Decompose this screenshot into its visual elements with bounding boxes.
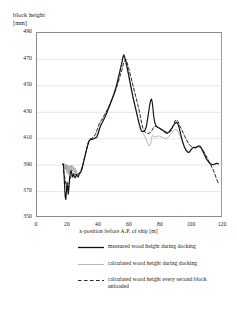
- y-tick-label: 490: [8, 28, 32, 34]
- x-tick-label: 60: [119, 221, 139, 227]
- series-measured-docking: [63, 55, 219, 200]
- legend-swatch-dashed-icon: [78, 276, 104, 284]
- legend-label-every-second-block: calculated wood height every second bloc…: [108, 276, 207, 291]
- y-axis-title: block height [mm]: [13, 11, 45, 26]
- legend-item-measured: measured wood height during docking: [78, 243, 230, 251]
- x-tick-label: 20: [57, 221, 77, 227]
- x-tick-label: 100: [181, 221, 201, 227]
- chart-legend: measured wood height during docking calc…: [78, 243, 230, 299]
- x-tick-label: 40: [88, 221, 108, 227]
- chart-page: block height [mm] 3503703904104304504704…: [0, 0, 237, 312]
- legend-item-calculated: calculated wood height during docking: [78, 260, 230, 268]
- legend-item-every-second-block: calculated wood height every second bloc…: [78, 276, 230, 291]
- x-tick-label: 120: [212, 221, 232, 227]
- legend-label-calculated: calculated wood height during docking: [108, 260, 197, 267]
- y-tick-label: 370: [8, 187, 32, 193]
- legend-swatch-solid-thin-icon: [78, 260, 104, 268]
- y-tick-label: 450: [8, 81, 32, 87]
- plot-area: [36, 32, 222, 217]
- legend-label-measured: measured wood height during docking: [108, 243, 196, 250]
- x-tick-label: 80: [150, 221, 170, 227]
- x-tick-label: 0: [26, 221, 46, 227]
- y-tick-label: 410: [8, 134, 32, 140]
- y-tick-label: 430: [8, 108, 32, 114]
- y-tick-label: 390: [8, 161, 32, 167]
- y-tick-label: 350: [8, 213, 32, 219]
- plot-svg: [37, 33, 223, 218]
- y-tick-label: 470: [8, 55, 32, 61]
- series-every-second-block: [63, 59, 218, 190]
- legend-swatch-solid-thick-icon: [78, 243, 104, 251]
- x-axis-title: x-position before A.P. of ship [m]: [0, 228, 237, 234]
